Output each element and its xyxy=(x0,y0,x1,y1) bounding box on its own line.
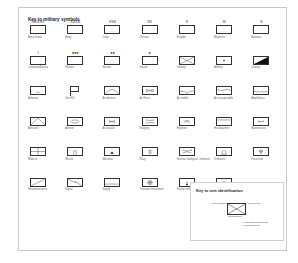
symbol-label: Corps xyxy=(102,36,135,39)
artillery-icon xyxy=(216,56,232,65)
unit-key-title: Key to unit identification xyxy=(196,188,243,193)
symbol-armour: Armour xyxy=(64,113,98,135)
symbol-label: Parachute xyxy=(251,158,284,161)
commander-label: Commander xyxy=(228,216,242,219)
symbol-label: Air mobile xyxy=(177,97,210,100)
symbol-label: Navy xyxy=(140,158,173,161)
symbol-label: Missile xyxy=(65,158,98,161)
symbol-label: Squad xyxy=(140,66,173,69)
echelon-mark: ●● xyxy=(104,51,120,55)
symbol-signal: Signal xyxy=(64,174,98,196)
echelon-mark: X xyxy=(179,20,195,24)
parent-unit-label: Parent unit xyxy=(248,203,262,206)
division-icon xyxy=(142,25,158,34)
transport-icon xyxy=(142,178,158,187)
symbol-label: Armour xyxy=(65,127,98,130)
air-assault-icon xyxy=(104,117,120,126)
cavalry-icon xyxy=(253,56,269,65)
symbol-label: Signal xyxy=(65,188,98,191)
symbol-reconnaissance: Reconnaissance xyxy=(27,174,61,196)
unit-identification-symbol xyxy=(227,203,246,215)
squad-icon xyxy=(142,56,158,65)
army-group-icon xyxy=(30,25,46,34)
symbol-label: Air defence xyxy=(102,97,135,100)
unit-identification-key: Key to unit identification Unit identifi… xyxy=(190,182,284,241)
echelon-mark: XXX xyxy=(104,20,120,24)
symbol-label: Infantry xyxy=(177,66,210,69)
symbol-label: Division xyxy=(140,36,173,39)
symbols-key-panel: Key to military symbols XXXXXArmy GroupX… xyxy=(18,7,287,251)
echelon-mark: XXXXX xyxy=(30,20,46,24)
symbol-cavalry: Cavalry xyxy=(250,52,284,74)
symbol-label: Transport movement xyxy=(140,188,173,191)
echelon-mark: II xyxy=(253,20,269,24)
platoon-icon xyxy=(67,56,83,65)
symbol-engineer: Engineer xyxy=(176,113,210,135)
symbol-air-defence: Air defence xyxy=(101,82,135,104)
symbol-navy: Navy xyxy=(139,143,173,165)
symbol-missile: Missile xyxy=(64,143,98,165)
symbol-airborne: Airborne xyxy=(27,82,61,104)
symbol-company: ICompany/Battery xyxy=(27,52,61,74)
symbol-label: Reconnaissance xyxy=(28,188,61,191)
navy-icon xyxy=(142,147,158,156)
symbol-label: Air Force xyxy=(140,97,173,100)
symbol-amphibious: Amphibious xyxy=(250,82,284,104)
symbol-label: Air assault xyxy=(102,127,135,130)
symbol-nbc: Nuclear, biological, chemical xyxy=(176,143,210,165)
airborne-icon xyxy=(30,86,46,95)
symbol-label: Battalion xyxy=(251,36,284,39)
symbol-label: Medical xyxy=(28,158,61,161)
symbol-unit-hq: Unit HQ xyxy=(64,82,98,104)
ordnance-icon xyxy=(216,147,232,156)
symbol-artillery: Artillery xyxy=(213,52,247,74)
symbol-medical: Medical xyxy=(27,143,61,165)
air-force-icon xyxy=(142,86,158,95)
echelon-mark: XXXX xyxy=(67,20,83,24)
symbol-label: Company/Battery xyxy=(28,66,61,69)
symbol-label: Platoon xyxy=(65,66,98,69)
symbol-label: Amphibious xyxy=(251,97,284,100)
symbol-brigade: XBrigade xyxy=(176,21,210,43)
symbol-supply: Supply xyxy=(101,174,135,196)
symbol-regiment: IIIRegiment xyxy=(213,21,247,43)
symbol-label: Maintenance xyxy=(251,127,284,130)
echelon-mark: I xyxy=(30,51,46,55)
symbol-label: Nuclear, biological, chemical xyxy=(177,158,210,161)
air-mobile-icon xyxy=(179,86,195,95)
echelon-mark: ●●● xyxy=(67,51,83,55)
air-transportable-icon xyxy=(216,86,232,95)
unit-identifier-label: Unit identifier xyxy=(210,203,226,206)
symbol-label: Air transportable xyxy=(214,97,247,100)
symbol-label: Army xyxy=(65,36,98,39)
symbol-ordnance: Ordnance xyxy=(213,143,247,165)
maintenance-icon xyxy=(253,117,269,126)
symbol-corps: XXXCorps xyxy=(101,21,135,43)
symbol-air-transportable: Air transportable xyxy=(213,82,247,104)
anti-tank-icon xyxy=(30,117,46,126)
symbol-label: Airborne xyxy=(28,97,61,100)
note-minus: (-) less elements xyxy=(241,225,259,228)
echelon-mark: XX xyxy=(142,20,158,24)
symbol-label: Ordnance xyxy=(214,158,247,161)
symbol-label: Brigade xyxy=(177,36,210,39)
symbol-parachute: Parachute xyxy=(250,143,284,165)
symbol-label: Headquarters xyxy=(214,127,247,130)
section-icon xyxy=(104,56,120,65)
infantry-cross-icon xyxy=(228,204,245,214)
symbol-maintenance: Maintenance xyxy=(250,113,284,135)
unit-hq-icon xyxy=(70,86,79,92)
air-defence-icon xyxy=(104,86,120,95)
headquarters-icon xyxy=(216,117,232,126)
symbol-air-assault: Air assault xyxy=(101,113,135,135)
symbol-label: Mountain xyxy=(102,158,135,161)
symbol-air-force: Air Force xyxy=(139,82,173,104)
symbol-division: XXDivision xyxy=(139,21,173,43)
echelon-mark: III xyxy=(216,20,232,24)
flag-pole xyxy=(70,86,71,96)
regiment-icon xyxy=(216,25,232,34)
bridging-icon xyxy=(142,117,158,126)
symbol-infantry: Infantry xyxy=(176,52,210,74)
symbol-label: Unit HQ xyxy=(65,97,98,100)
symbol-air-mobile: Air mobile xyxy=(176,82,210,104)
